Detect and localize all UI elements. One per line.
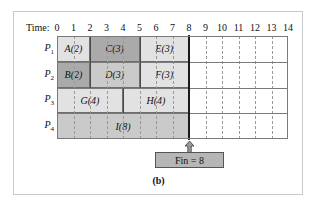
task-boundary-2 [90, 36, 91, 62]
task-boundary-4 [123, 88, 124, 114]
time-tick-1: 1 [65, 22, 83, 33]
time-tick-0: 0 [48, 22, 66, 33]
row-separator-1 [57, 62, 288, 63]
gantt-chart-figure: Time: 01234567891011121314 P1P2P3P4 A(2)… [0, 0, 317, 208]
time-tick-6: 6 [147, 22, 165, 33]
row-label-P2: P2 [34, 68, 54, 82]
time-tick-5: 5 [131, 22, 149, 33]
task-block-C: C(3) [90, 36, 140, 62]
time-tick-11: 11 [230, 22, 248, 33]
row-label-P4: P4 [34, 119, 54, 133]
task-block-F: F(3) [140, 62, 190, 88]
time-tick-3: 3 [98, 22, 116, 33]
time-tick-8: 8 [180, 22, 198, 33]
row-separator-2 [57, 88, 288, 89]
finish-time-line [188, 35, 190, 140]
time-tick-7: 7 [164, 22, 182, 33]
row-label-P3: P3 [34, 93, 54, 107]
time-tick-10: 10 [213, 22, 231, 33]
time-tick-12: 12 [246, 22, 264, 33]
task-block-D: D(3) [90, 62, 140, 88]
task-boundary-2 [90, 62, 91, 88]
time-tick-13: 13 [263, 22, 281, 33]
time-tick-4: 4 [114, 22, 132, 33]
task-boundary-5 [140, 62, 141, 88]
finish-time-badge: Fin = 8 [155, 152, 224, 168]
time-tick-9: 9 [197, 22, 215, 33]
schedule-grid: A(2)C(3)E(3)B(2)D(3)F(3)G(4)H(4)I(8) [57, 36, 288, 139]
time-axis-label: Time: [26, 22, 50, 33]
row-label-P1: P1 [34, 42, 54, 56]
task-boundary-5 [140, 36, 141, 62]
task-block-E: E(3) [140, 36, 190, 62]
row-separator-3 [57, 113, 288, 114]
time-tick-2: 2 [81, 22, 99, 33]
time-tick-14: 14 [279, 22, 297, 33]
figure-caption: (b) [0, 175, 317, 186]
